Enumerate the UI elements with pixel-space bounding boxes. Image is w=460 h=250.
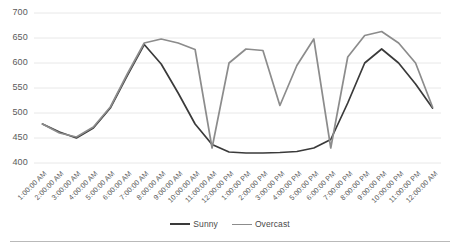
y-tick-label: 450 <box>0 132 28 142</box>
bottom-divider <box>10 241 450 242</box>
gridlines <box>34 13 441 163</box>
line-chart: 700650600550500450400 1:00:00 AM2:00:00 … <box>0 0 460 250</box>
y-tick-label: 700 <box>0 7 28 17</box>
legend-swatch-icon <box>232 224 252 225</box>
legend-label: Overcast <box>255 219 290 229</box>
chart-legend: SunnyOvercast <box>0 219 460 229</box>
y-tick-label: 400 <box>0 157 28 167</box>
legend-entry-overcast[interactable]: Overcast <box>232 219 290 229</box>
y-tick-label: 650 <box>0 32 28 42</box>
series-line-overcast <box>42 32 432 149</box>
legend-swatch-icon <box>170 223 190 225</box>
y-tick-label: 600 <box>0 57 28 67</box>
data-series-group <box>42 32 432 154</box>
legend-entry-sunny[interactable]: Sunny <box>170 219 218 229</box>
legend-label: Sunny <box>193 219 218 229</box>
y-tick-label: 550 <box>0 82 28 92</box>
y-tick-label: 500 <box>0 107 28 117</box>
series-line-sunny <box>42 45 432 154</box>
